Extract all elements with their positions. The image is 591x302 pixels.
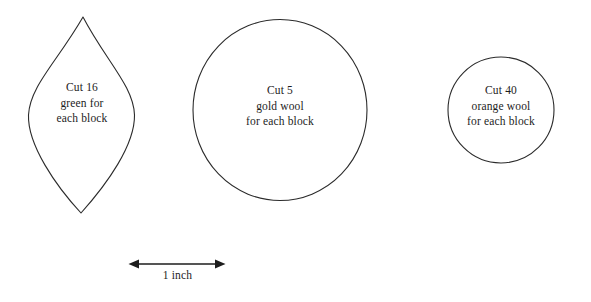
pattern-shapes-canvas	[0, 0, 591, 302]
small-circle-outline-shape	[448, 57, 554, 163]
large-circle-outline-shape	[193, 20, 367, 201]
scale-bar-label: 1 inch	[129, 268, 226, 282]
leaf-outline-shape	[28, 17, 134, 213]
pattern-template-sheet: Cut 16 green for each block Cut 5 gold w…	[0, 0, 591, 302]
